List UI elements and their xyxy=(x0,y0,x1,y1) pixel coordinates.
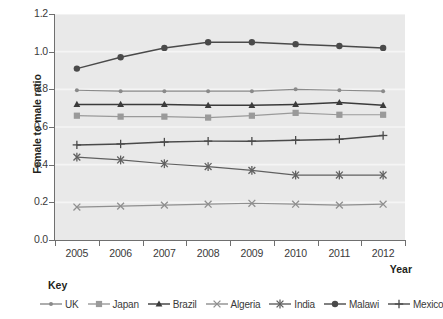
legend-item-uk[interactable]: UK xyxy=(40,298,79,310)
y-tick-label: 0.8 xyxy=(14,82,48,94)
legend-item-mexico[interactable]: Mexico xyxy=(388,298,443,310)
circle-marker-icon xyxy=(324,298,346,310)
legend: UKJapanBrazilAlgeriaIndiaMalawiMexico xyxy=(40,294,422,314)
legend-item-label: Malawi xyxy=(349,299,379,310)
legend-item-brazil[interactable]: Brazil xyxy=(148,298,197,310)
x-tick-label: 2009 xyxy=(227,247,277,259)
x-tick-label: 2008 xyxy=(183,247,233,259)
x-tick-label: 2011 xyxy=(314,247,364,259)
legend-item-label: Brazil xyxy=(173,299,197,310)
legend-item-label: Algeria xyxy=(231,299,261,310)
plot-svg xyxy=(55,14,405,240)
x-tick-mark xyxy=(405,240,406,246)
x-tick-label: 2012 xyxy=(358,247,408,259)
legend-item-label: UK xyxy=(65,299,79,310)
x-tick-mark xyxy=(274,240,275,246)
series-india xyxy=(73,153,386,180)
y-tick-label: 1.0 xyxy=(14,45,48,57)
y-tick-label: 0.2 xyxy=(14,195,48,207)
y-tick-label: 0.0 xyxy=(14,233,48,245)
x-axis-title: Year xyxy=(352,263,412,275)
asterisk-marker-icon xyxy=(269,298,291,310)
x-tick-label: 2005 xyxy=(52,247,102,259)
legend-item-label: Mexico xyxy=(413,299,443,310)
plot-area xyxy=(55,14,405,240)
x-tick-label: 2010 xyxy=(271,247,321,259)
square-marker-icon xyxy=(88,298,110,310)
y-tick-label: 0.4 xyxy=(14,158,48,170)
series-algeria xyxy=(73,200,386,211)
circle-small-marker-icon xyxy=(40,298,62,310)
series-uk xyxy=(75,87,385,93)
legend-title: Key xyxy=(48,279,67,291)
legend-item-label: India xyxy=(294,299,315,310)
series-mexico xyxy=(73,131,388,149)
legend-item-malawi[interactable]: Malawi xyxy=(324,298,379,310)
x-tick-mark xyxy=(230,240,231,246)
x-marker-icon xyxy=(206,298,228,310)
triangle-marker-icon xyxy=(148,298,170,310)
series-brazil xyxy=(73,99,386,108)
series-japan xyxy=(74,110,386,121)
legend-item-label: Japan xyxy=(113,299,139,310)
x-tick-mark xyxy=(186,240,187,246)
series-malawi xyxy=(74,39,387,72)
legend-item-india[interactable]: India xyxy=(269,298,315,310)
legend-item-japan[interactable]: Japan xyxy=(88,298,139,310)
y-tick-label: 0.6 xyxy=(14,120,48,132)
x-tick-mark xyxy=(318,240,319,246)
x-tick-mark xyxy=(55,240,56,246)
legend-item-algeria[interactable]: Algeria xyxy=(206,298,261,310)
x-tick-label: 2007 xyxy=(139,247,189,259)
x-tick-mark xyxy=(99,240,100,246)
x-tick-mark xyxy=(361,240,362,246)
plus-marker-icon xyxy=(388,298,410,310)
y-axis-line xyxy=(54,14,55,241)
x-tick-mark xyxy=(143,240,144,246)
y-tick-label: 1.2 xyxy=(14,7,48,19)
x-tick-label: 2006 xyxy=(96,247,146,259)
